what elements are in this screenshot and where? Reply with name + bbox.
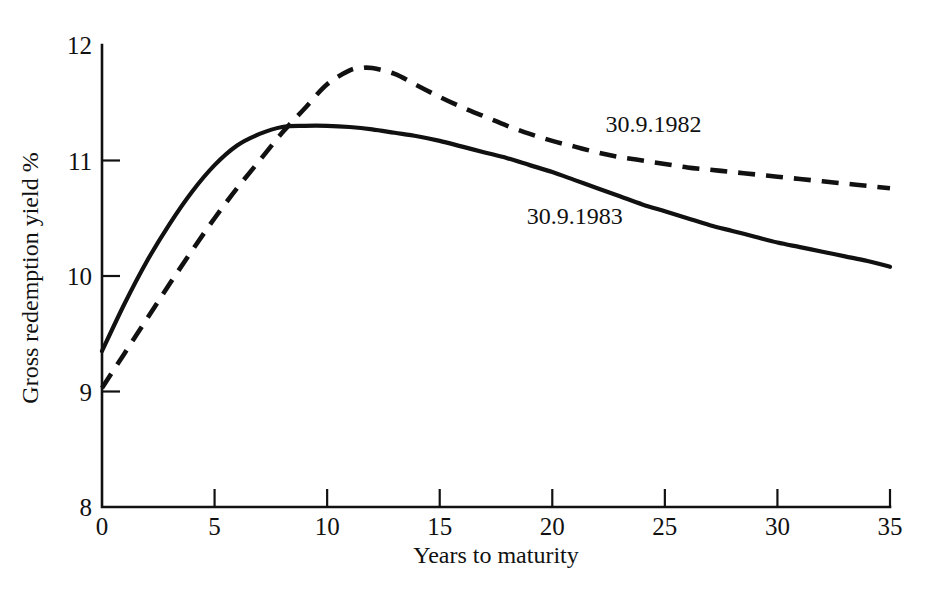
y-tick-label-10: 10 <box>67 263 92 290</box>
y-tick-label-8: 8 <box>80 494 93 521</box>
yield-curve-chart: 89101112 05101520253035 30.9.198230.9.19… <box>0 0 935 597</box>
x-tick-label-25: 25 <box>652 513 677 540</box>
series-label-30-9-1982: 30.9.1982 <box>606 111 702 137</box>
series-label-30-9-1983: 30.9.1983 <box>527 203 623 229</box>
x-tick-label-5: 5 <box>208 513 221 540</box>
x-tick-label-0: 0 <box>96 513 109 540</box>
x-tick-label-20: 20 <box>540 513 565 540</box>
y-tick-label-12: 12 <box>67 32 92 59</box>
y-axis-title: Gross redemption yield % <box>17 152 43 403</box>
x-tick-label-15: 15 <box>427 513 452 540</box>
x-tick-label-35: 35 <box>878 513 903 540</box>
x-tick-label-30: 30 <box>765 513 790 540</box>
x-axis-title: Years to maturity <box>413 542 579 568</box>
y-tick-label-9: 9 <box>80 379 93 406</box>
x-tick-label-10: 10 <box>315 513 340 540</box>
chart-container: 89101112 05101520253035 30.9.198230.9.19… <box>0 0 935 597</box>
y-tick-label-11: 11 <box>68 148 92 175</box>
